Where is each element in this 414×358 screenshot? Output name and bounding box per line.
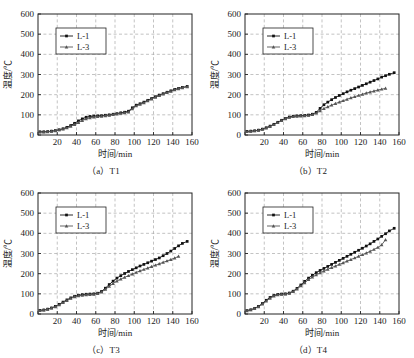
svg-text:140: 140: [373, 137, 387, 147]
svg-text:600: 600: [21, 188, 35, 198]
svg-text:100: 100: [228, 110, 242, 120]
svg-text:120: 120: [147, 137, 161, 147]
chart-svg-b: 010020030040050060020406080100120140160时…: [207, 0, 414, 179]
svg-text:60: 60: [298, 137, 308, 147]
svg-text:20: 20: [53, 137, 63, 147]
svg-text:60: 60: [91, 316, 101, 326]
svg-text:40: 40: [72, 316, 82, 326]
svg-text:时间/min: 时间/min: [305, 148, 340, 159]
svg-text:80: 80: [111, 137, 121, 147]
svg-text:120: 120: [354, 137, 368, 147]
svg-text:80: 80: [111, 316, 121, 326]
svg-text:时间/min: 时间/min: [98, 148, 133, 159]
chart-panel-c: 010020030040050060020406080100120140160时…: [0, 179, 207, 358]
svg-text:100: 100: [128, 316, 142, 326]
svg-text:140: 140: [373, 316, 387, 326]
svg-text:400: 400: [228, 228, 242, 238]
svg-text:200: 200: [228, 269, 242, 279]
svg-text:80: 80: [318, 137, 328, 147]
chart-svg-c: 010020030040050060020406080100120140160时…: [0, 179, 207, 358]
svg-text:100: 100: [128, 137, 142, 147]
panel-caption-c: （c）T3: [0, 343, 207, 356]
svg-text:温度/℃: 温度/℃: [209, 60, 220, 90]
svg-text:600: 600: [228, 9, 242, 19]
svg-text:300: 300: [228, 70, 242, 80]
svg-text:500: 500: [228, 29, 242, 39]
svg-text:40: 40: [279, 316, 289, 326]
svg-text:160: 160: [392, 137, 406, 147]
svg-text:时间/min: 时间/min: [305, 327, 340, 338]
svg-text:L-1: L-1: [77, 210, 89, 220]
svg-text:500: 500: [228, 208, 242, 218]
svg-text:160: 160: [185, 137, 199, 147]
svg-text:0: 0: [237, 309, 242, 319]
svg-text:200: 200: [21, 90, 35, 100]
panel-caption-a: （a）T1: [0, 164, 207, 177]
svg-text:120: 120: [147, 316, 161, 326]
svg-text:100: 100: [228, 289, 242, 299]
panel-caption-b: （b）T2: [207, 164, 414, 177]
svg-text:时间/min: 时间/min: [98, 327, 133, 338]
svg-text:100: 100: [335, 316, 349, 326]
svg-text:温度/℃: 温度/℃: [2, 60, 13, 90]
svg-text:300: 300: [21, 70, 35, 80]
svg-text:20: 20: [260, 316, 270, 326]
svg-text:0: 0: [237, 130, 242, 140]
chart-svg-a: 010020030040050060020406080100120140160时…: [0, 0, 207, 179]
svg-text:L-1: L-1: [284, 210, 296, 220]
svg-text:400: 400: [21, 228, 35, 238]
chart-panel-a: 010020030040050060020406080100120140160时…: [0, 0, 207, 179]
svg-text:140: 140: [166, 316, 180, 326]
chart-svg-d: 010020030040050060020406080100120140160时…: [207, 179, 414, 358]
svg-text:温度/℃: 温度/℃: [209, 239, 220, 269]
svg-text:600: 600: [228, 188, 242, 198]
svg-text:600: 600: [21, 9, 35, 19]
svg-text:L-3: L-3: [284, 42, 296, 52]
svg-text:500: 500: [21, 29, 35, 39]
svg-text:0: 0: [30, 309, 35, 319]
svg-text:400: 400: [21, 49, 35, 59]
svg-text:300: 300: [21, 249, 35, 259]
svg-text:400: 400: [228, 49, 242, 59]
svg-text:40: 40: [279, 137, 289, 147]
svg-text:L-3: L-3: [284, 221, 296, 231]
svg-text:120: 120: [354, 316, 368, 326]
svg-text:100: 100: [21, 110, 35, 120]
chart-panel-d: 010020030040050060020406080100120140160时…: [207, 179, 414, 358]
svg-text:160: 160: [392, 316, 406, 326]
svg-text:20: 20: [53, 316, 63, 326]
svg-text:温度/℃: 温度/℃: [2, 239, 13, 269]
svg-text:L-1: L-1: [284, 31, 296, 41]
chart-panel-b: 010020030040050060020406080100120140160时…: [207, 0, 414, 179]
svg-text:140: 140: [166, 137, 180, 147]
svg-text:200: 200: [228, 90, 242, 100]
svg-text:100: 100: [21, 289, 35, 299]
panel-caption-d: （d）T4: [207, 343, 414, 356]
svg-text:40: 40: [72, 137, 82, 147]
svg-text:200: 200: [21, 269, 35, 279]
svg-text:60: 60: [91, 137, 101, 147]
figure-panel-grid: 010020030040050060020406080100120140160时…: [0, 0, 414, 358]
svg-text:L-3: L-3: [77, 42, 89, 52]
svg-text:60: 60: [298, 316, 308, 326]
svg-text:300: 300: [228, 249, 242, 259]
svg-text:L-3: L-3: [77, 221, 89, 231]
svg-text:100: 100: [335, 137, 349, 147]
svg-text:L-1: L-1: [77, 31, 89, 41]
svg-text:500: 500: [21, 208, 35, 218]
svg-text:160: 160: [185, 316, 199, 326]
svg-text:0: 0: [30, 130, 35, 140]
svg-text:20: 20: [260, 137, 270, 147]
svg-text:80: 80: [318, 316, 328, 326]
